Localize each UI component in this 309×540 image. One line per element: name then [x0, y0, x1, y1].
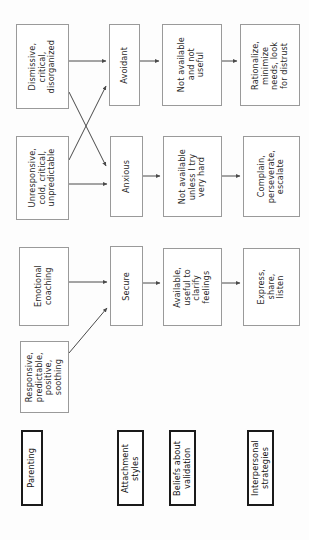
strategies-complain: Complain, perseverate, escalate — [243, 136, 300, 217]
beliefs-not-available-not-useful-label: Not available and not useful — [177, 37, 206, 92]
legend-beliefs-label: Beliefs about validation — [173, 441, 192, 496]
strategies-rationalize: Rationalize, minimize needs, look for di… — [240, 24, 300, 106]
beliefs-not-available-not-useful: Not available and not useful — [162, 24, 222, 106]
strategies-express-label: Express, share, listen — [257, 269, 286, 304]
parenting-dismissive-label: Dismissive, critical, disorganized — [28, 40, 57, 93]
attachment-secure-label: Secure — [122, 272, 132, 301]
edge-responsive-to-secure — [69, 308, 107, 353]
legend-strategies-label: Interpersonal strategies — [251, 440, 270, 496]
legend-attachment-styles-label: Attachment styles — [121, 444, 140, 493]
attachment-avoidant-label: Avoidant — [120, 47, 130, 84]
legend-parenting: Parenting — [21, 430, 43, 506]
edge-unresponsive-to-avoidant — [69, 86, 106, 160]
diagram-canvas: Dismissive, critical, disorganizedUnresp… — [0, 0, 309, 540]
legend-beliefs: Beliefs about validation — [169, 430, 196, 506]
legend-parenting-label: Parenting — [27, 448, 37, 488]
beliefs-not-available-unless-label: Not available unless I try very hard — [178, 149, 207, 204]
beliefs-available-useful: Available, useful to clarify feelings — [163, 248, 222, 326]
attachment-avoidant: Avoidant — [109, 24, 140, 106]
parenting-unresponsive: Unresponsive, cold, critical, unpredicta… — [16, 136, 69, 220]
strategies-express: Express, share, listen — [243, 248, 300, 326]
beliefs-not-available-unless: Not available unless I try very hard — [163, 136, 222, 217]
legend-strategies: Interpersonal strategies — [247, 430, 274, 506]
attachment-anxious-label: Anxious — [122, 160, 132, 193]
parenting-emotional-coaching: Emotional coaching — [19, 247, 69, 326]
strategies-rationalize-label: Rationalize, minimize needs, look for di… — [251, 41, 290, 90]
parenting-unresponsive-label: Unresponsive, cold, critical, unpredicta… — [28, 148, 57, 207]
edge-dismissive-to-anxious — [69, 92, 106, 166]
parenting-emotional-coaching-label: Emotional coaching — [34, 265, 53, 307]
attachment-secure: Secure — [110, 246, 143, 326]
beliefs-available-useful-label: Available, useful to clarify feelings — [173, 267, 212, 308]
attachment-anxious: Anxious — [110, 136, 143, 217]
parenting-responsive: Responsive, predictable, positive, sooth… — [20, 341, 69, 413]
strategies-complain-label: Complain, perseverate, escalate — [257, 150, 286, 203]
legend-attachment-styles: Attachment styles — [117, 430, 144, 506]
parenting-dismissive: Dismissive, critical, disorganized — [16, 24, 69, 109]
parenting-responsive-label: Responsive, predictable, positive, sooth… — [25, 352, 64, 402]
